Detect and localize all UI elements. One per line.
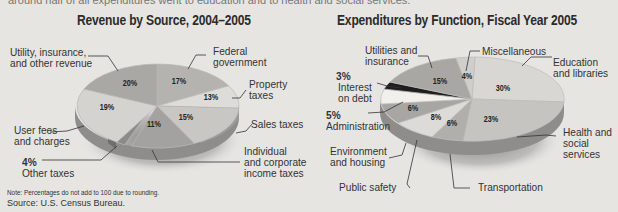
slice-utility: [84, 64, 157, 106]
label-utility: Utility, insurance, and other revenue: [10, 47, 92, 69]
slice-environment: [381, 99, 472, 123]
label-public-safety: Public safety: [339, 182, 396, 193]
pct-transportation: 6%: [447, 118, 457, 128]
pct-user-fees: 19%: [100, 102, 114, 112]
label-interest: Interest on debt: [338, 82, 372, 104]
revenue-chart-title: Revenue by Source, 2004–2005: [77, 12, 251, 28]
pct-health: 23%: [484, 114, 498, 124]
pct-utilities: 15%: [433, 76, 447, 86]
slice-other: [108, 109, 150, 145]
slice-administration: [381, 89, 472, 104]
label-federal: Federal government: [213, 46, 266, 68]
footnote: Note: Percentages do not add to 100 due …: [7, 188, 159, 197]
label-misc: Miscellaneous: [482, 46, 546, 57]
pct-utility: 20%: [123, 78, 137, 88]
label-education: Education and libraries: [553, 57, 608, 79]
pct-property: 13%: [204, 92, 218, 102]
pct-education: 30%: [496, 83, 510, 93]
label-sales: Sales taxes: [251, 119, 303, 130]
label-admin: Administration: [326, 121, 390, 132]
label-other: Other taxes: [22, 168, 74, 179]
slice-property: [157, 86, 239, 108]
revenue-pie-shadow: [80, 106, 244, 174]
source-credit: Source: U.S. Census Bureau.: [7, 198, 125, 208]
slice-interest: [384, 82, 472, 99]
label-environment: Environment and housing: [330, 146, 387, 168]
label-health: Health and social services: [563, 127, 612, 160]
pct-federal: 17%: [172, 76, 186, 86]
pct-public-safety: 8%: [431, 112, 441, 122]
slice-education: [472, 57, 564, 102]
label-transportation: Transportation: [478, 182, 543, 193]
slice-sales: [157, 106, 239, 144]
intro-text: around half of all expenditures went to …: [8, 0, 410, 6]
pct-income: 11%: [147, 119, 161, 129]
expenditure-pie-shadow: [398, 106, 562, 174]
label-property: Property taxes: [249, 79, 287, 101]
expenditure-chart-title: Expenditures by Function, Fiscal Year 20…: [337, 12, 577, 28]
slice-health: [463, 99, 564, 141]
label-utilities: Utilities and insurance: [365, 45, 417, 67]
pct-sales: 15%: [179, 112, 193, 122]
pct-misc: 4%: [462, 71, 472, 81]
label-user-fees: User fees and charges: [14, 125, 70, 147]
pct-environment: 6%: [408, 103, 418, 113]
slice-user-fees: [77, 89, 157, 142]
label-income: Individual and corporate income taxes: [244, 146, 306, 179]
